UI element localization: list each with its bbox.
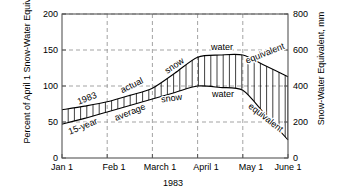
annotation-snow: snow [163, 55, 186, 75]
annotation-water: water [211, 89, 234, 99]
plot-area: 1983198315-year15-yearactualactualaverag… [0, 0, 346, 195]
annotation-equivalent: equivalent [244, 41, 286, 66]
annotation-water: water [210, 42, 233, 52]
snow-water-equivalent-chart: Percent of April 1 Snow-Water Equivalent… [0, 0, 346, 195]
annotation-snow: snow [160, 92, 183, 105]
annotation-equivalent: equivalent [247, 101, 286, 134]
